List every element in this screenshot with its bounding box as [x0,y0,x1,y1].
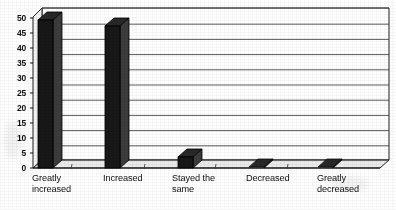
x-axis-label-stayed-the-same: Stayed the same [172,173,234,194]
bar-greatly-increased [38,12,62,168]
x-label-line-2: decreased [317,184,359,194]
back-wall [42,8,389,160]
x-label-line-1: Decreased [246,173,290,183]
x-axis-label-greatly-decreased: Greatly decreased [317,173,379,194]
x-label-line-2: same [172,184,194,194]
bar-chart: 50 45 40 35 30 25 20 15 10 5 0 [0,0,396,210]
x-label-line-1: Greatly [32,173,61,183]
x-axis-label-decreased: Decreased [246,173,308,184]
x-label-line-1: Increased [103,173,142,183]
x-label-line-1: Greatly [317,173,346,183]
x-axis-label-increased: Increased [103,173,165,184]
x-axis-label-greatly-increased: Greatly increased [32,173,94,194]
bar-increased [105,18,129,168]
x-label-line-1: Stayed the [172,173,215,183]
x-label-line-2: increased [32,184,71,194]
